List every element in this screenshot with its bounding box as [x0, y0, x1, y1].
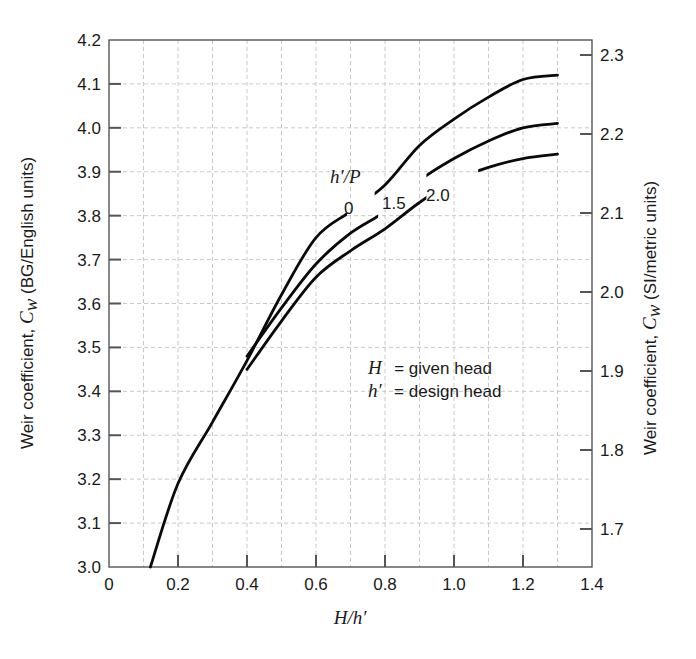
y-tick-label-left: 3.3 — [77, 426, 101, 445]
definition-h-prime-text: = design head — [394, 382, 501, 401]
definition-H-text: = given head — [394, 359, 492, 378]
y-axis-title-left: Weir coefficient, Cw (BG/English units) — [16, 157, 41, 449]
y-axis-title-right: Weir coefficient, Cw (SI/metric units) — [639, 181, 664, 455]
y-tick-label-right: 2.1 — [600, 204, 624, 223]
definition-H: H = given head — [367, 357, 492, 378]
y-tick-label-left: 4.2 — [77, 31, 101, 50]
y-tick-label-left: 4.0 — [77, 119, 101, 138]
curves — [150, 75, 557, 567]
y-tick-label-right: 2.3 — [600, 46, 624, 65]
y-right-subscript: w — [643, 304, 664, 317]
symbol-h-prime: h′ — [368, 380, 383, 401]
y-tick-label-left: 3.8 — [77, 207, 101, 226]
x-tick-label: 0.8 — [373, 575, 397, 594]
curve-h-over-p-2-0 — [247, 154, 558, 369]
curve-label-0: 0 — [344, 199, 353, 218]
legend-title: h′/P — [330, 166, 361, 187]
x-tick-label: 0.4 — [235, 575, 259, 594]
y-left-symbol: C — [16, 311, 37, 324]
curve-path — [150, 75, 557, 567]
y-left-prefix: Weir coefficient, — [18, 324, 37, 449]
y-left-suffix: (BG/English units) — [18, 157, 37, 299]
curve-label-1-5: 1.5 — [382, 194, 406, 213]
y-tick-label-right: 1.8 — [600, 441, 624, 460]
y-tick-label-left: 3.9 — [77, 163, 101, 182]
y-tick-label-left: 3.7 — [77, 251, 101, 270]
y-right-symbol: C — [639, 317, 660, 330]
y-tick-label-right: 1.7 — [600, 520, 624, 539]
y-tick-label-left: 3.6 — [77, 295, 101, 314]
symbol-H: H — [367, 357, 383, 378]
x-tick-label: 1.0 — [442, 575, 466, 594]
y-tick-label-left: 4.1 — [77, 75, 101, 94]
definition-h-prime: h′ = design head — [368, 380, 501, 401]
x-tick-label: 0.6 — [304, 575, 328, 594]
y-tick-label-left: 3.1 — [77, 514, 101, 533]
y-tick-label-right: 2.2 — [600, 125, 624, 144]
curve-path — [247, 154, 558, 369]
y-tick-label-left: 3.0 — [77, 558, 101, 577]
x-tick-label: 0 — [104, 575, 113, 594]
curve-path — [247, 123, 558, 356]
curve-h-over-p-0 — [150, 75, 557, 567]
x-tick-label: 1.2 — [511, 575, 535, 594]
y-tick-label-left: 3.5 — [77, 338, 101, 357]
y-tick-label-right: 2.0 — [600, 283, 624, 302]
x-tick-label: 0.2 — [166, 575, 190, 594]
y-tick-label-right: 1.9 — [600, 362, 624, 381]
y-left-subscript: w — [20, 298, 41, 311]
weir-coefficient-chart: 00.20.40.60.81.01.21.43.03.13.23.33.43.5… — [0, 0, 696, 659]
y-right-prefix: Weir coefficient, — [641, 330, 660, 455]
y-tick-label-left: 3.4 — [77, 382, 101, 401]
x-tick-label: 1.4 — [580, 575, 604, 594]
y-tick-label-left: 3.2 — [77, 470, 101, 489]
grid-lines — [109, 40, 592, 567]
y-right-suffix: (SI/metric units) — [641, 181, 660, 305]
x-axis-title: H/h′ — [333, 607, 368, 628]
curve-h-over-p-1-5 — [247, 123, 558, 356]
curve-label-2-0: 2.0 — [426, 186, 450, 205]
